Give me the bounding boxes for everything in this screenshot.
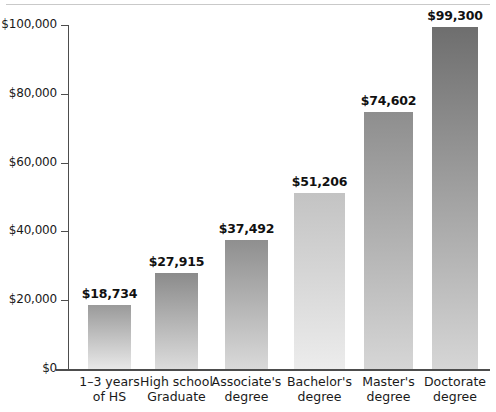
y-axis-tick-mark [61, 231, 69, 232]
bar-value-label: $99,300 [427, 8, 483, 23]
y-axis-tick-mark [61, 300, 69, 301]
bar: $37,492 [225, 240, 268, 369]
bar: $18,734 [88, 305, 131, 369]
y-axis-tick-label: $40,000 [0, 223, 57, 237]
y-axis-tick-label: $60,000 [0, 155, 57, 169]
y-axis-tick-label: $20,000 [0, 292, 57, 306]
bar: $51,206 [294, 193, 345, 369]
y-axis-tick-label: $0 [0, 361, 57, 375]
bar: $27,915 [155, 273, 198, 369]
x-axis-line [56, 369, 490, 371]
bar-value-label: $74,602 [361, 93, 417, 108]
y-axis-tick-mark [61, 25, 69, 26]
category-label-line: degree [410, 389, 496, 404]
bar-value-label: $18,734 [82, 286, 138, 301]
bar-value-label: $51,206 [292, 174, 348, 189]
bar-value-label: $37,492 [219, 221, 275, 236]
y-axis-tick-label: $80,000 [0, 86, 57, 100]
bar: $74,602 [364, 112, 413, 369]
category-label-line: Doctorate [410, 374, 496, 389]
y-axis-tick-mark [61, 163, 69, 164]
y-axis-tick-mark [61, 94, 69, 95]
category-label: Doctoratedegree [410, 374, 496, 404]
bar-value-label: $27,915 [149, 254, 205, 269]
bar-chart: $18,734$27,915$37,492$51,206$74,602$99,3… [0, 0, 496, 412]
y-axis-line [68, 25, 69, 370]
y-axis-tick-mark [61, 369, 69, 370]
bar: $99,300 [432, 27, 478, 369]
top-divider-rule [6, 4, 490, 5]
y-axis-tick-label: $100,000 [0, 17, 57, 31]
